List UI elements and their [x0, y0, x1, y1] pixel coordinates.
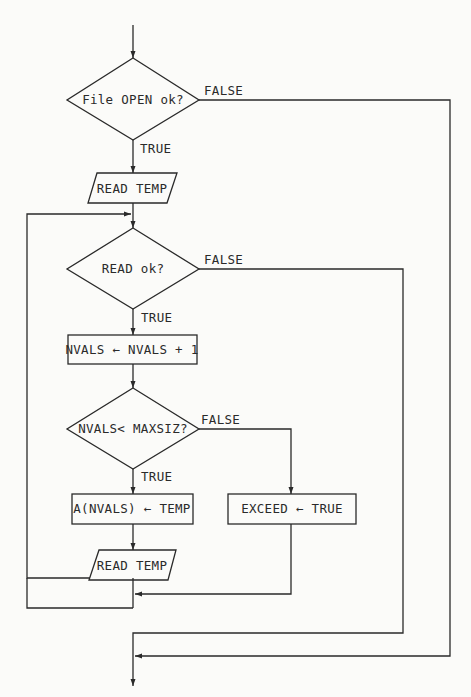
read-false-path — [133, 269, 403, 686]
read-check-label: READ ok? — [102, 261, 165, 276]
loop-return-path — [27, 578, 133, 608]
size-true-label: TRUE — [141, 469, 172, 484]
increment-label: NVALS ← NVALS + 1 — [65, 342, 198, 357]
size-false-path — [199, 429, 291, 494]
read-false-label: FALSE — [204, 252, 243, 267]
open-check-label: File OPEN ok? — [82, 92, 184, 107]
open-true-label: TRUE — [140, 141, 171, 156]
read-true-label: TRUE — [141, 310, 172, 325]
exceed-label: EXCEED ← TRUE — [241, 501, 343, 516]
size-check-label: NVALS< MAXSIZ? — [78, 421, 188, 436]
flowchart: File OPEN ok? FALSE TRUE READ TEMP READ … — [0, 0, 471, 697]
read-temp-2-label: READ TEMP — [97, 558, 167, 573]
store-label: A(NVALS) ← TEMP — [73, 501, 190, 516]
open-false-label: FALSE — [204, 83, 243, 98]
size-false-label: FALSE — [201, 412, 240, 427]
read-temp-1-label: READ TEMP — [97, 181, 167, 196]
